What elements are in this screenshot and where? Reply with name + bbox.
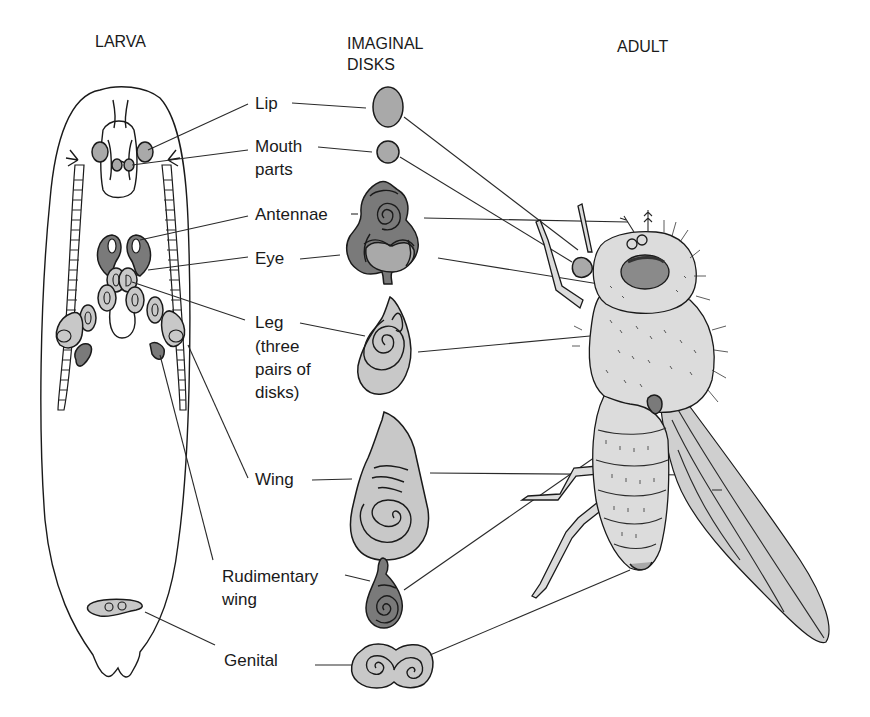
label-eye: Eye (255, 249, 284, 268)
fly-wing (660, 372, 829, 643)
label-mouth-parts-2: parts (255, 160, 293, 179)
larva-leg-disk-3r (147, 297, 163, 323)
imaginal-disks-header-line1: IMAGINAL (347, 35, 424, 52)
disk-labels: Lip Mouth parts Antennae Eye Leg (three … (221, 94, 328, 670)
imaginal-disks-diagram: LARVA IMAGINAL DISKS ADULT (0, 0, 870, 717)
label-leg-2: (three (255, 337, 299, 356)
label-rudimentary-wing-1: Rudimentary (222, 567, 319, 586)
larva-trachea-left (58, 165, 84, 410)
label-antennae: Antennae (255, 205, 328, 224)
fly-arista (620, 210, 652, 232)
rudimentary-wing-disk (366, 558, 402, 628)
label-leg-4: disks) (255, 383, 299, 402)
larva-leg-disk-2r (126, 287, 144, 313)
label-genital: Genital (224, 651, 278, 670)
larva-wing-disk-left (56, 313, 82, 348)
larva-header: LARVA (95, 33, 146, 50)
imaginal-disks (347, 87, 433, 688)
label-wing: Wing (255, 470, 294, 489)
adult-fly (522, 204, 829, 643)
fly-abdomen (593, 396, 669, 570)
wing-disk (350, 412, 428, 560)
fly-proboscis (572, 257, 592, 277)
leg-disk (358, 297, 411, 394)
larva-brain-outline (110, 310, 135, 338)
eye-antenna-disk (347, 182, 419, 284)
larva-drawing (41, 87, 190, 677)
fly-hind-leg (522, 466, 600, 500)
larva-haltere-disk-right (150, 343, 164, 360)
fly-antenna-leg-segment (578, 204, 592, 252)
larva-lip-disk-right (137, 142, 153, 162)
lip-disk (373, 87, 403, 127)
larva-anterior-spiracles (66, 150, 180, 166)
larva-haltere-disk-left (75, 344, 92, 366)
label-lip: Lip (255, 94, 278, 113)
genital-disk (352, 644, 433, 688)
imaginal-disks-header-line2: DISKS (347, 56, 395, 73)
adult-header: ADULT (617, 38, 668, 55)
larva-lip-disk-left (92, 142, 108, 162)
larva-mouthparts-disk-left (112, 159, 122, 171)
label-rudimentary-wing-2: wing (221, 590, 257, 609)
label-mouth-parts-1: Mouth (255, 137, 302, 156)
label-leg-1: Leg (255, 313, 283, 332)
label-leg-3: pairs of (255, 360, 311, 379)
larva-leg-disk-2l (98, 285, 116, 311)
mouthparts-disk (377, 141, 399, 163)
larva-trachea-right (162, 165, 186, 410)
larva-genital-disk (88, 599, 143, 616)
